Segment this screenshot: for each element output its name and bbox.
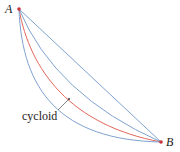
point-b-marker bbox=[159, 140, 163, 144]
annotation-leader-line bbox=[58, 100, 68, 110]
cycloid-label: cycloid bbox=[22, 109, 57, 123]
point-a-marker bbox=[17, 7, 21, 11]
annotation-leader-dot bbox=[68, 98, 70, 100]
brachistochrone-diagram: A B cycloid bbox=[0, 0, 180, 152]
point-b-label: B bbox=[166, 135, 174, 149]
point-a-label: A bbox=[4, 2, 13, 16]
